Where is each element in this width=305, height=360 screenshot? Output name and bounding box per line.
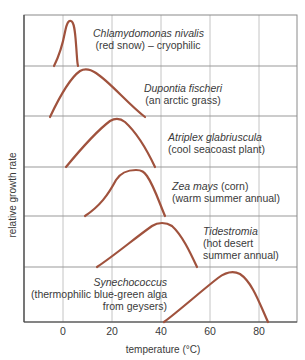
label-tidestromia: Tidestromia (hot desert summer annual) [203, 225, 279, 261]
curve-synechococcus [164, 272, 268, 322]
x-axis-label: temperature (°C) [126, 344, 201, 355]
species-name: Synechococcus [30, 276, 167, 288]
x-tick-80: 80 [253, 325, 265, 337]
x-tick-20: 20 [106, 325, 118, 337]
species-name: Atriplex glabriuscula [168, 131, 265, 143]
label-dupontia: Dupontia fischeri (an arctic grass) [138, 82, 228, 106]
label-chlamydomonas: Chlamydomonas nivalis (red snow) – cryop… [93, 27, 203, 51]
x-tick-60: 60 [204, 325, 216, 337]
label-synechococcus: Synechococcus (thermophilic blue-green a… [30, 276, 167, 312]
label-zea: Zea mays (corn) (warm summer annual) [172, 180, 280, 204]
species-name: Tidestromia [203, 225, 279, 237]
label-atriplex: Atriplex glabriuscula (cool seacoast pla… [168, 131, 265, 155]
x-tick-0: 0 [60, 325, 66, 337]
x-tick-40: 40 [155, 325, 167, 337]
species-desc: (cool seacoast plant) [168, 143, 265, 155]
species-desc: (hot desert [203, 237, 279, 249]
y-axis-label: relative growth rate [7, 152, 18, 237]
species-desc-2: (warm summer annual) [172, 192, 280, 204]
species-desc: (corn) [218, 180, 248, 192]
species-desc: (red snow) – cryophilic [93, 39, 203, 51]
species-name: Zea mays [172, 180, 218, 192]
curve-atriplex [66, 119, 155, 167]
species-desc-2: from geysers) [30, 300, 167, 312]
curve-dupontia [50, 69, 145, 117]
curve-zea [85, 170, 165, 216]
species-name: Dupontia fischeri [138, 82, 228, 94]
species-name: Chlamydomonas nivalis [93, 27, 203, 39]
species-desc-2: summer annual) [203, 249, 279, 261]
curve-chlamydomonas [54, 21, 78, 66]
species-desc: (thermophilic blue-green alga [30, 288, 167, 300]
species-desc: (an arctic grass) [138, 94, 228, 106]
